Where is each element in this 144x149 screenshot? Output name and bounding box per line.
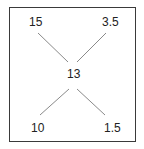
bottom-left-value: 10 (31, 122, 44, 134)
bottom-right-value: 1.5 (104, 122, 121, 134)
center-value: 13 (67, 68, 80, 80)
top-left-value: 15 (29, 16, 42, 28)
top-right-value: 3.5 (102, 16, 119, 28)
